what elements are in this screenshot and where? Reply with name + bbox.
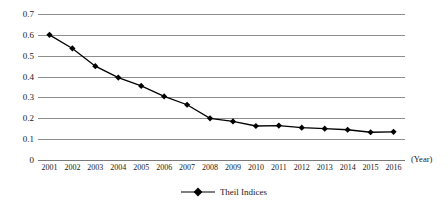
chart-legend: Theil Indices [0,186,448,198]
data-point-marker-2016 [390,129,396,135]
data-point-marker-2009 [230,118,236,124]
data-point-marker-2004 [115,75,121,81]
data-point-marker-2001 [46,32,52,38]
y-axis-tick-label: 0.4 [0,72,34,81]
data-point-marker-2007 [184,102,190,108]
y-axis-tick-label: 0.6 [0,30,34,39]
data-point-marker-2008 [207,115,213,121]
y-axis-tick-label: 0.7 [0,10,34,19]
data-point-marker-2012 [299,125,305,131]
legend-diamond-marker-icon [181,186,215,198]
gridline-0 [38,160,405,161]
data-point-marker-2015 [367,129,373,135]
data-point-marker-2011 [276,122,282,128]
y-axis-tick-label: 0.1 [0,135,34,144]
x-axis-title: (Year) [411,154,432,164]
legend-label-theil-indices: Theil Indices [220,187,267,197]
plot-area [38,14,405,160]
data-point-marker-2014 [345,127,351,133]
data-point-marker-2006 [161,93,167,99]
y-axis-tick-label: 0 [0,156,34,165]
y-axis-tick-label: 0.3 [0,93,34,102]
data-point-marker-2013 [322,126,328,132]
y-axis-tick-label: 0.2 [0,114,34,123]
series-line [49,35,393,132]
x-axis-tick-label-2016: 2016 [379,164,409,172]
theil-indices-line-chart: 0.70.60.50.40.30.20.10 20012002200320042… [0,0,448,211]
data-point-marker-2010 [253,123,259,129]
y-axis-tick-label: 0.5 [0,51,34,60]
series-theil-indices [38,14,405,160]
data-point-marker-2005 [138,83,144,89]
